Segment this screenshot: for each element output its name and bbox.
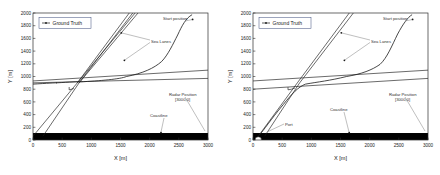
svg-text:2500: 2500 xyxy=(174,143,185,148)
svg-text:1500: 1500 xyxy=(115,143,126,148)
svg-text:1400: 1400 xyxy=(241,49,252,54)
annot-radar-position: Radar Position xyxy=(169,92,197,97)
svg-text:200: 200 xyxy=(243,125,251,130)
annot-sea-lanes: Sea Lanes xyxy=(151,39,171,44)
legend-label-ground-truth: Ground Truth xyxy=(273,20,303,26)
annot-port: Port xyxy=(285,122,294,127)
plot-area-background xyxy=(33,13,208,140)
svg-text:3000: 3000 xyxy=(423,143,434,148)
marker-start-position xyxy=(192,19,194,21)
x-axis-label: X [m] xyxy=(334,155,347,161)
svg-text:600: 600 xyxy=(23,100,31,105)
svg-text:800: 800 xyxy=(23,87,31,92)
annot-start-position: Start position xyxy=(163,16,188,21)
panel-left: 0 200 400 600 800 1000 1200 1400 1600 18… xyxy=(0,0,220,175)
annot-radar-position-coords: [3000,0] xyxy=(395,97,410,102)
y-axis-tick-labels: 0 200 400 600 800 1000 1200 1400 1600 18… xyxy=(241,11,252,143)
svg-text:1000: 1000 xyxy=(241,74,252,79)
marker-sea-lane-upper xyxy=(340,32,342,34)
x-axis-tick-labels: 0 500 1000 1500 2000 2500 3000 xyxy=(32,143,214,148)
marker-sea-lane-upper xyxy=(120,32,122,34)
marker-sea-lane-lower xyxy=(344,59,346,61)
panel-right: 0 200 400 600 800 1000 1200 1400 1600 18… xyxy=(220,0,440,175)
marker-coastline xyxy=(348,132,350,134)
panel-right-canvas: 0 200 400 600 800 1000 1200 1400 1600 18… xyxy=(220,0,440,175)
x-axis-label: X [m] xyxy=(114,155,127,161)
annot-sea-lanes: Sea Lanes xyxy=(371,39,391,44)
y-axis-label: Y [m] xyxy=(227,70,233,83)
annot-coastline: Coastline xyxy=(330,107,348,112)
legend[interactable]: Ground Truth xyxy=(39,18,91,29)
svg-text:800: 800 xyxy=(243,87,251,92)
svg-text:3000: 3000 xyxy=(203,143,214,148)
legend[interactable]: Ground Truth xyxy=(259,18,311,29)
svg-text:1200: 1200 xyxy=(241,61,252,66)
svg-text:1800: 1800 xyxy=(241,23,252,28)
svg-text:2000: 2000 xyxy=(21,11,32,16)
y-axis-tick-labels: 0 200 400 600 800 1000 1200 1400 1600 18… xyxy=(21,11,32,143)
annot-radar-position-coords: [3000,0] xyxy=(175,97,190,102)
x-axis-tick-labels: 0 500 1000 1500 2000 2500 3000 xyxy=(252,143,434,148)
svg-text:1200: 1200 xyxy=(21,61,32,66)
figure-two-panel-trajectory-plots: 0 200 400 600 800 1000 1200 1400 1600 18… xyxy=(0,0,440,175)
legend-label-ground-truth: Ground Truth xyxy=(53,20,83,26)
svg-text:0: 0 xyxy=(252,143,255,148)
svg-text:500: 500 xyxy=(278,143,286,148)
svg-text:0: 0 xyxy=(28,138,31,143)
right-plot-svg: 0 200 400 600 800 1000 1200 1400 1600 18… xyxy=(220,0,440,175)
svg-text:200: 200 xyxy=(23,125,31,130)
marker-start-position xyxy=(412,19,414,21)
svg-text:1000: 1000 xyxy=(86,143,97,148)
svg-text:0: 0 xyxy=(32,143,35,148)
annot-coastline: Coastline xyxy=(150,113,168,118)
panel-left-canvas: 0 200 400 600 800 1000 1200 1400 1600 18… xyxy=(0,0,220,175)
svg-text:2000: 2000 xyxy=(145,143,156,148)
annot-radar-position: Radar Position xyxy=(389,92,417,97)
svg-text:500: 500 xyxy=(58,143,66,148)
svg-text:1600: 1600 xyxy=(21,36,32,41)
svg-text:2000: 2000 xyxy=(241,11,252,16)
svg-text:0: 0 xyxy=(248,138,251,143)
svg-text:1500: 1500 xyxy=(335,143,346,148)
marker-coastline xyxy=(160,132,162,134)
svg-text:1600: 1600 xyxy=(241,36,252,41)
svg-text:600: 600 xyxy=(243,100,251,105)
svg-text:400: 400 xyxy=(243,112,251,117)
legend-marker-sample xyxy=(265,22,267,24)
svg-text:2500: 2500 xyxy=(394,143,405,148)
svg-text:1000: 1000 xyxy=(21,74,32,79)
svg-text:1400: 1400 xyxy=(21,49,32,54)
svg-text:2000: 2000 xyxy=(365,143,376,148)
marker-sea-lane-lower xyxy=(124,59,126,61)
left-plot-svg: 0 200 400 600 800 1000 1200 1400 1600 18… xyxy=(0,0,220,175)
plot-area-background xyxy=(253,13,428,140)
y-axis-label: Y [m] xyxy=(7,70,13,83)
annot-start-position: Start position xyxy=(383,16,408,21)
svg-text:1000: 1000 xyxy=(306,143,317,148)
svg-text:400: 400 xyxy=(23,112,31,117)
svg-text:1800: 1800 xyxy=(21,23,32,28)
legend-marker-sample xyxy=(45,22,47,24)
